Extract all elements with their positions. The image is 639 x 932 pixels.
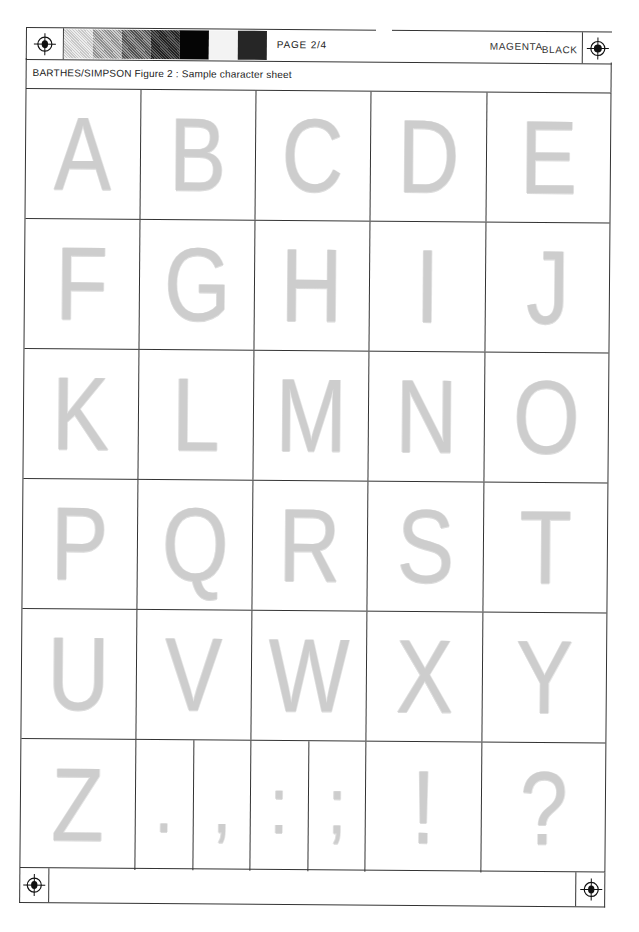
glyph-cell: J: [485, 223, 609, 353]
grayscale-swatch-strip: [64, 29, 267, 60]
glyph: R: [279, 486, 342, 605]
glyph-cell: R: [252, 481, 368, 611]
grid-row: A B C D E: [25, 89, 610, 224]
page-number-label: PAGE 2/4: [277, 39, 327, 50]
glyph-cell: N: [368, 352, 485, 482]
swatch: [238, 31, 267, 60]
glyph-cell: F: [24, 219, 140, 349]
glyph: Q: [161, 485, 228, 605]
grid-row: U V W X Y: [21, 609, 606, 744]
glyph-cell: M: [253, 351, 369, 481]
figure-caption-row: BARTHES/SIMPSON Figure 2 : Sample charac…: [26, 58, 612, 93]
glyph: V: [165, 615, 223, 734]
glyph-cell: C: [255, 91, 371, 221]
glyph-cell: L: [138, 350, 254, 480]
glyph: F: [55, 224, 108, 343]
glyph-cell: A: [25, 89, 141, 219]
glyph: H: [281, 226, 344, 345]
figure-caption: BARTHES/SIMPSON Figure 2 : Sample charac…: [33, 67, 292, 80]
glyph-cell: P: [22, 479, 138, 609]
registration-target-icon: [582, 32, 612, 63]
glyph-cell: ;: [308, 741, 366, 871]
glyph-cell: B: [140, 90, 256, 220]
glyph: G: [163, 225, 230, 345]
glyph-cell: .: [135, 740, 194, 870]
glyph: ,: [212, 759, 231, 851]
glyph-cell: V: [136, 610, 252, 740]
glyph: Y: [515, 618, 573, 737]
glyph-cell: !: [365, 742, 482, 873]
glyph: T: [519, 488, 572, 607]
glyph: D: [397, 97, 460, 216]
swatch: [151, 30, 180, 59]
glyph-cell: T: [483, 483, 607, 613]
glyph: I: [415, 227, 440, 346]
swatch: [209, 30, 238, 59]
swatch: [93, 30, 122, 59]
glyph-cell: D: [370, 92, 487, 222]
glyph-cell: I: [369, 222, 486, 352]
glyph: O: [513, 358, 580, 478]
plate-label-magenta: MAGENTA: [490, 41, 543, 52]
registration-target-icon: [19, 868, 49, 902]
glyph-cell: Z: [20, 739, 136, 870]
glyph: !: [411, 748, 436, 867]
glyph-cell: ?: [481, 743, 605, 874]
glyph: ;: [327, 760, 346, 852]
grid-row: K L M N O: [23, 349, 608, 484]
registration-target-icon: [575, 872, 605, 906]
glyph: :: [270, 760, 289, 852]
glyph: K: [52, 354, 110, 473]
glyph: N: [395, 357, 458, 476]
grid-row: P Q R S T: [22, 479, 607, 614]
glyph: L: [172, 355, 220, 474]
glyph-cell: W: [251, 611, 367, 741]
glyph: X: [395, 617, 453, 736]
glyph: M: [275, 356, 347, 476]
swatch: [122, 30, 151, 59]
glyph: P: [51, 484, 109, 603]
glyph: B: [169, 95, 227, 214]
glyph-cell: Y: [482, 613, 606, 743]
glyph-cell: ,: [193, 740, 251, 870]
glyph-cell: X: [366, 612, 483, 742]
glyph: A: [54, 94, 112, 213]
glyph-cell: K: [23, 349, 139, 479]
glyph: J: [526, 228, 570, 347]
swatch: [180, 30, 209, 59]
plate-label-black: BLACK: [542, 44, 578, 55]
glyph: W: [268, 616, 349, 736]
glyph: E: [520, 98, 578, 217]
glyph-cell: S: [367, 482, 484, 612]
glyph: ?: [519, 748, 567, 867]
glyph: S: [397, 487, 455, 606]
glyph-cell: O: [484, 353, 608, 483]
glyph: U: [48, 614, 111, 733]
glyph-cell: U: [21, 609, 137, 739]
grid-row: F G H I J: [24, 219, 609, 354]
registration-target-icon: [26, 28, 64, 59]
character-sheet: PAGE 2/4 MAGENTA BLACK BARTHES/SIMPSON F…: [19, 27, 612, 908]
glyph: C: [282, 96, 345, 215]
glyph-cell: :: [250, 741, 309, 871]
glyph-cell: E: [486, 93, 610, 223]
glyph: Z: [51, 745, 104, 864]
glyph-cell: H: [254, 221, 370, 351]
grid-row: Z . , : ; ! ?: [20, 739, 605, 874]
character-grid: A B C D E F G H I J K L M N O P Q R S T: [19, 88, 611, 873]
glyph: .: [155, 759, 174, 851]
footer-strip: [19, 868, 605, 908]
swatch: [64, 29, 93, 58]
glyph-cell: G: [139, 220, 255, 350]
glyph-cell: Q: [137, 480, 253, 610]
